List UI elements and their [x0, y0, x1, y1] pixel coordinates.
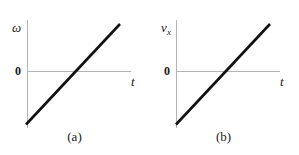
panel-a: ω 0 t (a) [0, 0, 149, 155]
caption-a: (a) [0, 130, 149, 144]
figure-two-panel-graphs: ω 0 t (a) vx 0 t (b) [0, 0, 299, 155]
caption-b: (b) [149, 130, 298, 144]
panel-b: vx 0 t (b) [149, 0, 298, 155]
data-line-a [26, 24, 120, 125]
data-line-b [176, 24, 270, 125]
